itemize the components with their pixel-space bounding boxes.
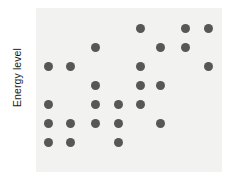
- data-point: [44, 119, 53, 128]
- figure-root: Energy level: [0, 0, 230, 178]
- data-point: [181, 24, 190, 33]
- data-point: [114, 100, 123, 109]
- data-point: [136, 24, 145, 33]
- data-point: [156, 119, 165, 128]
- data-point: [136, 81, 145, 90]
- data-point: [136, 62, 145, 71]
- data-point: [44, 138, 53, 147]
- data-point: [66, 62, 75, 71]
- y-axis-label: Energy level: [12, 14, 23, 142]
- plot-panel: [36, 8, 222, 172]
- data-point: [44, 100, 53, 109]
- data-point: [91, 43, 100, 52]
- data-point: [91, 100, 100, 109]
- data-point: [114, 119, 123, 128]
- data-point: [204, 62, 213, 71]
- y-axis-label-area: Energy level: [0, 0, 34, 178]
- data-point: [66, 119, 75, 128]
- data-point: [156, 81, 165, 90]
- data-point: [44, 62, 53, 71]
- data-point: [204, 24, 213, 33]
- data-point: [181, 43, 190, 52]
- data-point: [156, 43, 165, 52]
- data-point: [66, 138, 75, 147]
- data-point: [91, 119, 100, 128]
- data-point: [91, 81, 100, 90]
- data-point: [114, 138, 123, 147]
- data-point: [136, 100, 145, 109]
